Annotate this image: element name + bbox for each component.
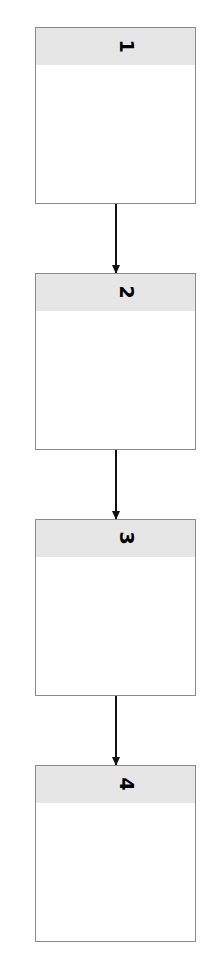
node-4-label: 4 bbox=[117, 777, 136, 790]
node-4: 4 bbox=[35, 765, 196, 942]
node-3: 3 bbox=[35, 519, 196, 696]
node-1-label: 1 bbox=[117, 39, 136, 52]
arrow-1-to-2 bbox=[115, 204, 117, 273]
arrow-3-to-4 bbox=[115, 696, 117, 765]
node-3-label: 3 bbox=[117, 531, 136, 544]
arrow-2-to-3 bbox=[115, 450, 117, 519]
node-2: 2 bbox=[35, 273, 196, 450]
node-1: 1 bbox=[35, 27, 196, 204]
node-2-label: 2 bbox=[117, 285, 136, 298]
